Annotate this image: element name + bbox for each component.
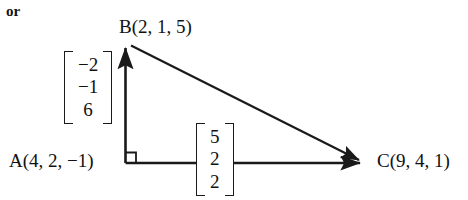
segment-bc-arrow — [131, 46, 359, 161]
point-label-a: A(4, 2, −1) — [9, 151, 94, 170]
vector-ac-matrix: 5 2 2 — [196, 123, 234, 196]
vector-ac-component-2: 2 — [210, 148, 220, 170]
bracket-right-icon — [103, 51, 112, 124]
vector-ab-component-2: −1 — [78, 76, 98, 98]
figure-canvas: or −2 −1 6 5 2 2 — [0, 0, 468, 200]
vector-ab-values: −2 −1 6 — [73, 51, 103, 124]
point-label-b: B(2, 1, 5) — [119, 17, 192, 36]
vector-ac-component-1: 5 — [210, 126, 220, 148]
bracket-right-icon — [225, 123, 234, 196]
bracket-left-icon — [196, 123, 205, 196]
vector-ab-component-1: −2 — [78, 54, 98, 76]
right-angle-marker — [126, 153, 137, 164]
vector-ab-component-3: 6 — [78, 99, 98, 121]
vector-ac-component-3: 2 — [210, 171, 220, 193]
point-label-c: C(9, 4, 1) — [377, 151, 450, 170]
bracket-left-icon — [64, 51, 73, 124]
vector-ab-matrix: −2 −1 6 — [64, 51, 112, 124]
vector-ac-values: 5 2 2 — [205, 123, 225, 196]
